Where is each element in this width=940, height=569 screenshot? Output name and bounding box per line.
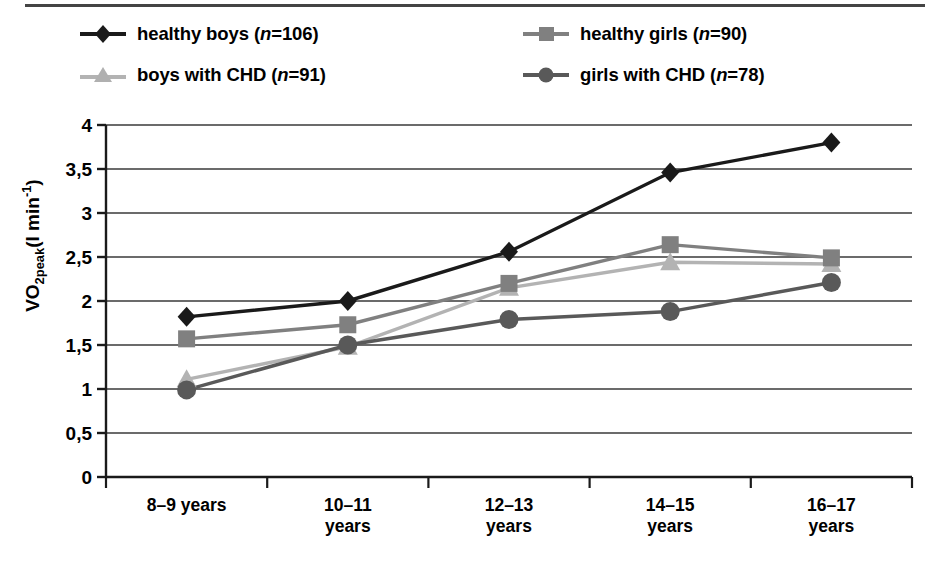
data-point-diamond bbox=[178, 307, 196, 327]
data-point-square bbox=[823, 249, 840, 266]
chart-canvas bbox=[0, 0, 940, 569]
data-point-diamond bbox=[822, 133, 840, 153]
data-point-diamond bbox=[661, 163, 679, 183]
data-point-circle bbox=[822, 273, 841, 292]
x-tick-label: 10–11 years bbox=[324, 495, 372, 538]
data-point-diamond bbox=[500, 242, 518, 262]
plot-area: VO2peak(l min-1) 00,511,522,533,54 8–9 y… bbox=[0, 0, 940, 569]
data-point-circle bbox=[500, 310, 519, 329]
series-line bbox=[187, 283, 832, 390]
x-tick-label: 14–15 years bbox=[646, 495, 695, 538]
data-point-circle bbox=[661, 302, 680, 321]
x-tick-label: 16–17 years bbox=[807, 495, 856, 538]
figure-root: healthy boys (n=106) healthy girls (n=90… bbox=[0, 0, 940, 569]
data-point-square bbox=[501, 275, 518, 292]
data-point-diamond bbox=[339, 291, 357, 311]
x-tick-label: 8–9 years bbox=[147, 495, 227, 516]
data-point-square bbox=[178, 330, 195, 347]
data-point-circle bbox=[177, 380, 196, 399]
data-point-square bbox=[339, 316, 356, 333]
x-tick-label: 12–13 years bbox=[485, 495, 534, 538]
data-point-square bbox=[662, 236, 679, 253]
data-point-circle bbox=[338, 336, 357, 355]
